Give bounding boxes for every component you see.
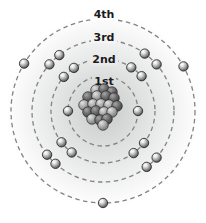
- electron: [140, 49, 149, 58]
- electron: [142, 162, 151, 171]
- electron: [19, 59, 28, 68]
- electron: [51, 159, 60, 168]
- electron: [55, 50, 64, 59]
- electron: [45, 60, 54, 69]
- shell-label-4th: 4th: [94, 8, 115, 21]
- electron: [69, 63, 78, 72]
- electron: [59, 72, 68, 81]
- shell-label-2nd: 2nd: [92, 53, 115, 66]
- electron: [179, 62, 188, 71]
- electron: [42, 150, 51, 159]
- electron: [63, 106, 72, 115]
- electron: [152, 153, 161, 162]
- electron: [137, 72, 146, 81]
- shell-label-3rd: 3rd: [94, 31, 115, 44]
- electron: [129, 148, 138, 157]
- electron: [127, 63, 136, 72]
- electron: [139, 138, 148, 147]
- atom-svg: 1st2nd3rd4th: [0, 0, 206, 223]
- electron: [133, 106, 142, 115]
- electron: [57, 138, 66, 147]
- electron: [152, 60, 161, 69]
- atom-diagram: 1st2nd3rd4th: [0, 0, 206, 223]
- electron: [67, 148, 76, 157]
- electron: [98, 198, 107, 207]
- nucleon-light: [98, 120, 109, 131]
